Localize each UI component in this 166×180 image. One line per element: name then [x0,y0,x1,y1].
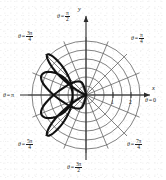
grid-spoke [86,95,127,136]
theta-label-0: θ=0 [145,97,156,103]
grid-spoke [45,54,86,95]
fraction: 5π4 [26,139,33,151]
polar-plot-figure: θ=π2 θ=3π4 θ=π4 θ=π θ=0 θ=5π4 θ=7π4 θ=3π… [0,0,166,180]
theta-value: π [11,92,14,98]
fraction-denominator: 4 [26,144,33,151]
x-axis-label: x [152,84,155,91]
grid-spoke [45,95,86,136]
radial-tick-label-1: 1 [111,99,114,105]
fraction: 3π4 [26,31,33,43]
fraction: 3π2 [75,162,82,174]
fraction: π4 [139,33,144,45]
theta-label-5pi-over-4: θ=5π4 [18,139,33,151]
fraction: π2 [65,11,70,23]
y-axis-arrowhead [84,16,89,22]
theta-label-pi-over-4: θ=π4 [131,33,144,45]
fraction-denominator: 4 [26,36,33,43]
theta-label-7pi-over-4: θ=7π4 [127,139,142,151]
radial-tick-label-2: 2 [129,99,132,105]
theta-label-pi: θ=π [3,92,14,98]
theta-label-3pi-over-2: θ=3π2 [67,162,82,174]
theta-value: 0 [153,97,156,103]
theta-label-3pi-over-4: θ=3π4 [18,31,33,43]
grid-spoke [86,54,127,95]
fraction-denominator: 2 [65,16,70,23]
y-axis-label: y [78,5,81,12]
theta-label-pi-over-2: θ=π2 [57,11,70,23]
fraction-denominator: 4 [135,144,142,151]
fraction: 7π4 [135,139,142,151]
fraction-denominator: 4 [139,38,144,45]
polar-plot-canvas [0,0,166,180]
fraction-denominator: 2 [75,167,82,174]
